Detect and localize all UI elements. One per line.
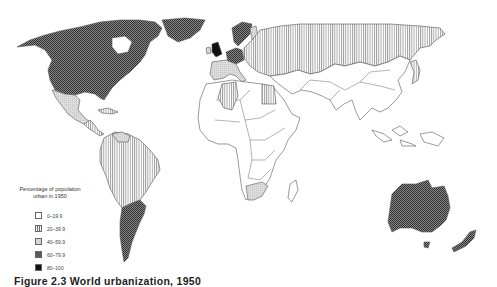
region-mexico — [52, 90, 90, 124]
region-ireland — [206, 47, 211, 54]
region-africa — [198, 80, 300, 200]
region-caribbean — [98, 108, 118, 114]
legend-label: 60–79.9 — [47, 252, 65, 258]
region-indonesia — [372, 126, 444, 146]
legend-item-20-39: 20–39.9 — [35, 225, 65, 232]
swatch-vertical-lines — [35, 225, 42, 232]
legend-item-0-19: 0–19.9 — [35, 212, 62, 219]
legend-item-80-100: 80–100 — [35, 264, 64, 271]
region-egypt — [262, 84, 276, 104]
legend-title-line1: Percentage of population — [14, 186, 86, 193]
legend-title-line2: urban in 1950 — [14, 193, 86, 200]
swatch-blank — [35, 212, 42, 219]
region-tasmania — [424, 242, 430, 248]
legend-item-60-79: 60–79.9 — [35, 251, 65, 258]
region-australia — [388, 180, 450, 232]
region-north-america — [17, 20, 162, 100]
legend-label: 40–59.9 — [47, 239, 65, 245]
region-new-zealand — [452, 230, 476, 252]
legend-title: Percentage of population urban in 1950 — [14, 186, 86, 200]
region-greenland — [162, 18, 205, 42]
legend-item-40-59: 40–59.9 — [35, 238, 65, 245]
region-western-europe — [210, 60, 246, 82]
region-central-america — [84, 120, 104, 136]
map-legend: Percentage of population urban in 1950 0… — [14, 186, 94, 200]
legend-label: 20–39.9 — [47, 226, 65, 232]
figure-caption: Figure 2.3 World urbanization, 1950 — [14, 275, 201, 287]
region-southern-cone — [120, 200, 146, 262]
swatch-light-stipple — [35, 238, 42, 245]
legend-label: 0–19.9 — [47, 213, 62, 219]
region-south-america-north — [100, 132, 160, 208]
legend-label: 80–100 — [47, 265, 64, 271]
region-japan — [410, 60, 420, 84]
region-madagascar — [288, 180, 298, 202]
region-uk — [212, 42, 222, 57]
region-scandinavia — [232, 22, 252, 46]
swatch-checker — [35, 251, 42, 258]
swatch-solid — [35, 264, 42, 271]
